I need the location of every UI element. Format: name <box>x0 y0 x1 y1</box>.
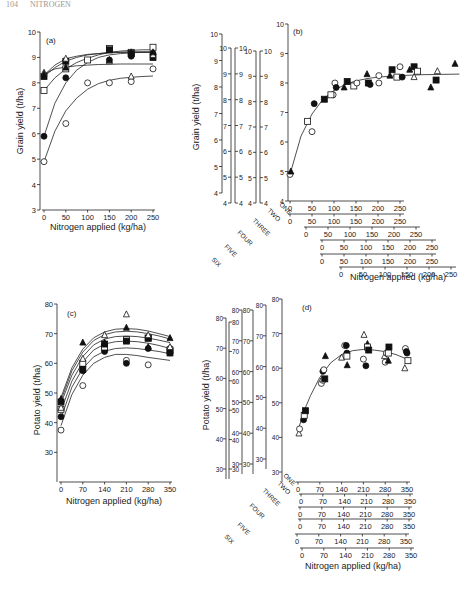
data-point-triangle-open <box>402 365 408 371</box>
fit-curve <box>290 74 459 174</box>
x-tick-label: 0 <box>298 510 302 519</box>
x-tick-label: 140 <box>337 522 350 531</box>
x-tick-label: 350 <box>404 497 417 506</box>
svg-text:80: 80 <box>232 307 240 314</box>
data-point-circle-open <box>106 80 112 86</box>
svg-text:40: 40 <box>243 430 251 437</box>
data-point-square-filled <box>389 67 395 73</box>
svg-text:9: 9 <box>248 73 252 80</box>
y-axis-title: Potato yield (t/ha) <box>201 360 211 431</box>
x-tick-label: 100 <box>344 230 357 239</box>
x-tick-label: 70 <box>319 497 327 506</box>
data-point-square-open <box>41 87 47 93</box>
x-tick-label: 250 <box>410 230 423 239</box>
data-point-triangle-filled <box>167 335 173 341</box>
x-tick-label: 0 <box>298 522 302 531</box>
chart-panel-a: 345678910050100150200250(a)Nitrogen appl… <box>15 28 159 232</box>
x-tick-label: 210 <box>357 485 370 494</box>
y-tick-label: 9 <box>32 53 36 62</box>
svg-text:6: 6 <box>214 137 218 144</box>
svg-text:6: 6 <box>264 149 268 156</box>
svg-text:7: 7 <box>223 123 227 130</box>
chart-panel-d: 3040506070803040506070803040506070803040… <box>201 296 417 571</box>
data-point-square-open <box>85 57 91 63</box>
y-tick-label: 80 <box>45 300 53 309</box>
fit-curve <box>44 64 153 74</box>
data-point-triangle-open <box>361 331 367 337</box>
x-tick-label: 280 <box>383 551 396 560</box>
data-point-circle-open <box>309 129 315 135</box>
svg-text:70: 70 <box>232 338 240 345</box>
panel-label: (a) <box>46 36 56 45</box>
stacked-y-axis: 304050607080 <box>232 307 242 474</box>
x-axis-title: Nitrogen applied (kg/ha) <box>66 496 162 506</box>
data-point-square-open <box>405 358 411 364</box>
x-tick-label: 350 <box>405 551 418 560</box>
stacked-y-axis: 45678910 <box>210 31 222 197</box>
y-tick-label: 60 <box>45 359 53 368</box>
x-tick-label: 0 <box>296 485 300 494</box>
svg-text:6: 6 <box>223 148 227 155</box>
data-point-square-open <box>344 353 350 359</box>
svg-text:30: 30 <box>232 461 240 468</box>
svg-text:50: 50 <box>216 406 224 413</box>
data-point-square-filled <box>302 408 308 414</box>
panel-label: (c) <box>67 309 77 318</box>
data-point-circle-open <box>85 80 91 86</box>
svg-text:70: 70 <box>272 331 280 338</box>
y-tick-label: 50 <box>45 389 53 398</box>
axis-label-four: FOUR <box>236 229 254 247</box>
stacked-x-axis-3: 050100150200250 <box>304 227 422 239</box>
data-point-circle-open <box>145 362 151 368</box>
x-tick-label: 150 <box>382 243 395 252</box>
data-point-triangle-open <box>102 332 108 338</box>
svg-text:10: 10 <box>264 48 272 55</box>
svg-text:8: 8 <box>239 97 243 104</box>
data-point-triangle-filled <box>322 353 328 359</box>
x-tick-label: 70 <box>318 522 326 531</box>
svg-text:10: 10 <box>219 45 227 52</box>
data-point-circle-open <box>354 80 360 86</box>
data-point-circle-filled <box>367 81 373 87</box>
x-tick-label: 350 <box>403 522 416 531</box>
x-axis-title: Nitrogen applied (kg/ha) <box>305 561 401 571</box>
x-tick-label: 50 <box>308 217 316 226</box>
axis-label-five: FIVE <box>236 521 252 537</box>
svg-text:70: 70 <box>232 348 240 355</box>
x-tick-label: 150 <box>350 204 363 213</box>
svg-text:5: 5 <box>264 175 268 182</box>
axis-label-three: THREE <box>261 487 282 508</box>
svg-text:80: 80 <box>243 307 251 314</box>
x-tick-label: 0 <box>300 551 304 560</box>
x-tick-label: 140 <box>334 537 347 546</box>
svg-text:80: 80 <box>272 296 280 303</box>
svg-text:4: 4 <box>214 190 218 197</box>
svg-text:70: 70 <box>243 338 251 345</box>
x-axis-title: Nitrogen applied (kg/ha) <box>50 222 146 232</box>
svg-text:8: 8 <box>223 97 227 104</box>
stacked-x-axis-2: 050100150200250 <box>288 214 406 226</box>
data-point-triangle-filled <box>364 71 370 77</box>
panel-label: (b) <box>293 27 303 36</box>
x-tick-label: 70 <box>79 485 87 494</box>
data-point-circle-filled <box>123 360 129 366</box>
y-tick-label: 8 <box>32 79 36 88</box>
y-tick-label: 40 <box>45 419 53 428</box>
svg-text:4: 4 <box>264 200 268 207</box>
svg-text:7: 7 <box>239 123 243 130</box>
data-point-triangle-filled <box>344 362 350 368</box>
x-tick-label: 0 <box>339 270 343 279</box>
svg-text:9: 9 <box>223 71 227 78</box>
svg-text:4: 4 <box>239 200 243 207</box>
axis-label-two: TWO <box>266 207 282 223</box>
x-tick-label: 200 <box>372 217 385 226</box>
svg-text:7: 7 <box>280 110 284 117</box>
svg-text:40: 40 <box>256 425 264 432</box>
x-tick-label: 100 <box>328 204 341 213</box>
x-tick-label: 100 <box>81 213 94 222</box>
x-tick-label: 350 <box>403 510 416 519</box>
data-point-triangle-filled <box>452 60 458 66</box>
x-tick-label: 0 <box>299 497 303 506</box>
x-tick-label: 100 <box>360 243 373 252</box>
data-point-circle-open <box>58 427 64 433</box>
